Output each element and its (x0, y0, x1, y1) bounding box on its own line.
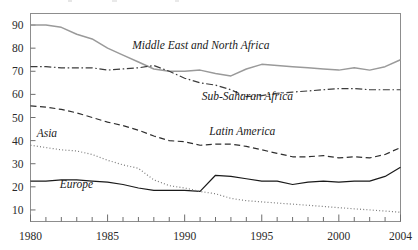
y-tick-label: 60 (12, 88, 24, 100)
y-tick-label: 80 (12, 42, 24, 54)
top-cropped-title-artifact (68, 0, 179, 2)
series-label: Sub-Saharan Africa (202, 90, 294, 103)
y-tick-label: 10 (12, 204, 24, 216)
x-axis-ticks (31, 215, 401, 222)
x-tick-label: 1980 (19, 230, 42, 242)
y-tick-label: 30 (12, 158, 24, 170)
x-tick-label: 1990 (173, 230, 196, 242)
series-label: Middle East and North Africa (131, 39, 269, 52)
series-label: Asia (36, 127, 58, 139)
chart-figure: 102030405060708090 198019851990199520002… (0, 0, 418, 250)
x-axis-tick-labels: 198019851990199520002004 (19, 230, 412, 242)
line-chart: 102030405060708090 198019851990199520002… (0, 0, 418, 250)
series-label: Latin America (208, 125, 275, 137)
series-inline-labels: Middle East and North AfricaSub-Saharan … (36, 39, 294, 191)
y-tick-label: 40 (12, 135, 24, 147)
x-tick-label: 1985 (96, 230, 119, 242)
y-axis-tick-labels: 102030405060708090 (12, 19, 24, 216)
y-axis-ticks (31, 25, 36, 210)
x-tick-label: 1995 (250, 230, 273, 242)
x-tick-label: 2000 (327, 230, 350, 242)
series-label: Europe (59, 178, 93, 191)
y-tick-label: 90 (12, 19, 24, 31)
y-tick-label: 20 (12, 181, 24, 193)
x-tick-label: 2004 (389, 230, 412, 242)
y-tick-label: 50 (12, 112, 24, 124)
y-tick-label: 70 (12, 65, 24, 77)
